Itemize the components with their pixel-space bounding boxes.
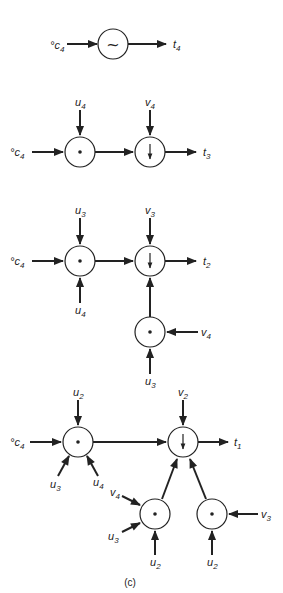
label: u2 [73,386,84,401]
label: u3 [108,530,119,545]
output-label: t3 [203,146,211,161]
label: u4 [75,304,86,319]
figure-caption: (c) [124,577,136,588]
arrow [162,459,177,499]
label: v3 [145,204,156,219]
output-label: t2 [203,255,211,270]
diagram-4: °c4 u2 u3 u4 v2 t1 v4 u3 u2 v3 u2 [10,386,272,571]
label: u3 [50,478,61,493]
input-label: °c4 [10,436,25,451]
label: v3 [261,508,272,523]
arrow [122,523,140,532]
tilde-symbol: ~ [106,35,119,54]
input-label: °c4 [10,146,25,161]
label: v2 [178,386,189,401]
label: v4 [145,96,156,111]
input-label: °c4 [10,255,25,270]
dot-icon [153,512,157,516]
output-label: t1 [234,436,242,451]
dot-icon [78,150,82,154]
label: u2 [207,556,218,571]
label: u4 [93,476,104,491]
dot-icon [148,330,152,334]
arrow [58,456,69,476]
label: v4 [201,326,212,341]
arrow [190,459,206,499]
signal-flow-diagram: °c4 ~ t4 °c4 u4 v4 t3 °c4 u3 u4 v3 [0,0,283,593]
label: u3 [75,204,86,219]
diagram-3: °c4 u3 u4 v3 t2 v4 u3 [10,204,212,390]
label: v4 [110,486,121,501]
input-label: °c4 [50,39,65,54]
dot-icon [78,259,82,263]
diagram-2: °c4 u4 v4 t3 [10,96,211,167]
label: u4 [75,96,86,111]
label: u2 [150,556,161,571]
dot-icon [210,512,214,516]
arrow [122,496,140,505]
dot-icon [76,440,80,444]
output-label: t4 [173,38,181,53]
arrow [87,456,98,476]
label: u3 [145,375,156,390]
diagram-1: °c4 ~ t4 [50,29,181,59]
